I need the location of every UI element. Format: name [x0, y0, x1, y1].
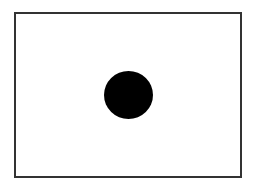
black-circle [104, 71, 153, 119]
